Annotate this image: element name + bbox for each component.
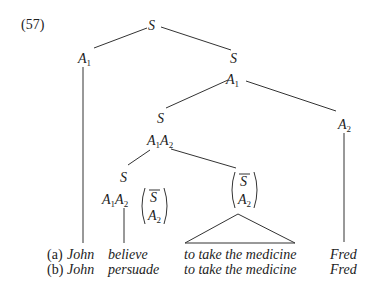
node-a2-right: A2 <box>338 118 351 134</box>
bracket-low: S A2 <box>139 186 170 226</box>
bracket-right-bottom: A2 <box>238 193 251 209</box>
node-a1-mid: A1 <box>226 73 239 89</box>
bracket-low-top: S <box>150 191 157 205</box>
row-b-verb: persuade <box>108 263 159 277</box>
bracket-right: S A2 <box>229 170 260 210</box>
row-b-object: Fred <box>330 263 357 277</box>
row-a-label: (a) <box>47 248 63 262</box>
node-a1-left: A1 <box>78 52 91 68</box>
node-s-right: S <box>230 52 237 66</box>
row-b-label: (b) <box>47 263 63 277</box>
example-number: (57) <box>21 18 44 32</box>
bracket-low-bottom: A2 <box>148 209 161 225</box>
row-a-object: Fred <box>330 248 357 262</box>
node-a1a2-low: A1A2 <box>102 193 128 209</box>
bracket-right-top: S <box>240 175 247 189</box>
node-s-low: S <box>120 171 127 185</box>
row-a-verb: believe <box>108 248 148 262</box>
row-a-subject: John <box>67 248 94 262</box>
row-b-subject: John <box>67 263 94 277</box>
node-root-s: S <box>148 19 155 33</box>
row-b-complement: to take the medicine <box>184 263 296 277</box>
node-s-mid: S <box>157 112 164 126</box>
node-a1a2-mid: A1A2 <box>147 134 173 150</box>
row-a-complement: to take the medicine <box>184 248 296 262</box>
